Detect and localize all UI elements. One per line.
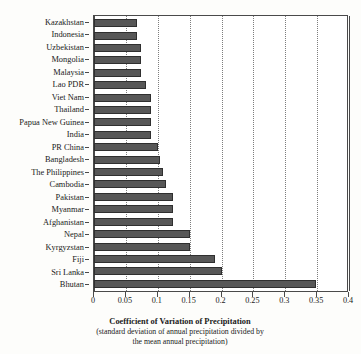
bar-row	[94, 19, 347, 28]
category-label-viet-nam: Viet Nam	[0, 93, 89, 102]
bar-row	[94, 230, 347, 239]
category-label-bhutan: Bhutan	[0, 280, 89, 289]
y-tick-mark	[85, 97, 89, 98]
category-label-cambodia: Cambodia	[0, 180, 89, 189]
category-label-wrap: Uzbekistan	[0, 43, 89, 52]
y-tick-mark	[85, 122, 89, 123]
x-axis-caption: Coefficient of Variation of Precipitatio…	[30, 316, 330, 346]
category-label-bangladesh: Bangladesh	[0, 155, 89, 164]
bar-row	[94, 44, 347, 53]
y-tick-mark	[85, 197, 89, 198]
bar-mongolia	[94, 56, 141, 64]
bar-row	[94, 279, 347, 288]
category-label-papua-new-guinea: Papua New Guinea	[0, 118, 89, 127]
bar-series	[94, 16, 347, 291]
category-label-wrap: Lao PDR	[0, 80, 89, 89]
bar-row	[94, 93, 347, 102]
x-tick-label-0-3: 0.3	[279, 296, 289, 305]
category-label-thailand: Thailand	[0, 105, 89, 114]
bar-row	[94, 68, 347, 77]
bar-row	[94, 192, 347, 201]
bar-pr-china	[94, 143, 158, 151]
y-tick-mark	[85, 209, 89, 210]
category-label-wrap: Afghanistan	[0, 218, 89, 227]
bar-row	[94, 168, 347, 177]
bar-indonesia	[94, 32, 137, 40]
x-tick-label-0-15: 0.15	[181, 296, 195, 305]
category-label-wrap: Myanmar	[0, 205, 89, 214]
bar-row	[94, 155, 347, 164]
bar-uzbekistan	[94, 44, 141, 52]
bar-row	[94, 130, 347, 139]
y-tick-mark	[85, 34, 89, 35]
bar-afghanistan	[94, 218, 173, 226]
y-tick-mark	[85, 184, 89, 185]
category-label-wrap: Pakistan	[0, 193, 89, 202]
bar-row	[94, 254, 347, 263]
category-label-wrap: Nepal	[0, 230, 89, 239]
bar-row	[94, 106, 347, 115]
x-tick-label-0-1: 0.1	[152, 296, 162, 305]
category-label-mongolia: Mongolia	[0, 55, 89, 64]
category-label-wrap: India	[0, 130, 89, 139]
bar-pakistan	[94, 193, 173, 201]
plot-area	[93, 15, 348, 292]
category-axis-labels: KazakhstanIndonesiaUzbekistanMongoliaMal…	[0, 15, 89, 292]
x-tick-label-0-4: 0.4	[343, 296, 353, 305]
category-label-wrap: The Philippines	[0, 168, 89, 177]
bar-bangladesh	[94, 156, 160, 164]
bar-fiji	[94, 255, 215, 263]
category-label-wrap: Kazakhstan	[0, 18, 89, 27]
x-axis-title: Coefficient of Variation of Precipitatio…	[30, 316, 330, 327]
y-tick-mark	[85, 134, 89, 135]
y-tick-mark	[85, 147, 89, 148]
bar-malaysia	[94, 69, 141, 77]
bar-row	[94, 31, 347, 40]
bar-papua-new-guinea	[94, 118, 151, 126]
bar-viet-nam	[94, 94, 151, 102]
bar-bhutan	[94, 280, 316, 288]
x-tick-label-0-05: 0.05	[118, 296, 132, 305]
category-label-sri-lanka: Sri Lanka	[0, 268, 89, 277]
category-label-india: India	[0, 130, 89, 139]
bar-india	[94, 131, 151, 139]
bar-row	[94, 81, 347, 90]
y-tick-mark	[85, 47, 89, 48]
category-label-afghanistan: Afghanistan	[0, 218, 89, 227]
category-label-fiji: Fiji	[0, 255, 89, 264]
category-label-wrap: Cambodia	[0, 180, 89, 189]
bar-row	[94, 205, 347, 214]
category-label-kyrgyzstan: Kyrgyzstan	[0, 243, 89, 252]
y-tick-mark	[85, 109, 89, 110]
category-label-malaysia: Malaysia	[0, 68, 89, 77]
x-axis-subtitle-line2: the mean annual precipitation)	[30, 337, 330, 347]
category-label-wrap: Malaysia	[0, 68, 89, 77]
category-label-wrap: Mongolia	[0, 55, 89, 64]
bar-row	[94, 217, 347, 226]
y-tick-mark	[85, 72, 89, 73]
category-label-wrap: PR China	[0, 143, 89, 152]
category-label-wrap: Bangladesh	[0, 155, 89, 164]
bar-row	[94, 118, 347, 127]
x-tick-label-0-25: 0.25	[245, 296, 259, 305]
category-label-wrap: Sri Lanka	[0, 268, 89, 277]
y-tick-mark	[85, 247, 89, 248]
bar-the-philippines	[94, 168, 163, 176]
category-label-wrap: Papua New Guinea	[0, 118, 89, 127]
bar-kazakhstan	[94, 19, 137, 27]
bar-row	[94, 56, 347, 65]
precipitation-variation-bar-chart: KazakhstanIndonesiaUzbekistanMongoliaMal…	[0, 0, 361, 354]
y-tick-mark	[85, 272, 89, 273]
category-label-myanmar: Myanmar	[0, 205, 89, 214]
category-label-uzbekistan: Uzbekistan	[0, 43, 89, 52]
y-tick-mark	[85, 234, 89, 235]
bar-row	[94, 242, 347, 251]
category-label-nepal: Nepal	[0, 230, 89, 239]
x-axis-tick-labels: 00.050.10.150.20.250.30.350.4	[0, 296, 361, 308]
x-axis-subtitle-line1: (standard deviation of annual precipitat…	[30, 327, 330, 337]
bar-row	[94, 180, 347, 189]
scan-artifact	[0, 0, 361, 12]
category-label-wrap: Bhutan	[0, 280, 89, 289]
y-tick-mark	[85, 259, 89, 260]
category-label-wrap: Kyrgyzstan	[0, 243, 89, 252]
